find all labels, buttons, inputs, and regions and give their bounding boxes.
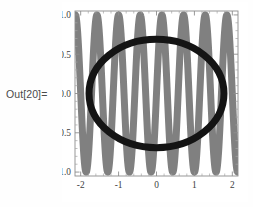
ytick-label: -1.0 <box>62 167 71 177</box>
ytick-label: -0.5 <box>62 128 71 138</box>
xtick-label: -1 <box>115 180 123 190</box>
plot-graphics[interactable]: -2-1012-1.0-0.50.00.51.0 <box>62 2 248 202</box>
ytick-label: 1.0 <box>62 10 71 20</box>
xtick-label: 0 <box>154 180 159 190</box>
xtick-label: 2 <box>230 180 235 190</box>
ytick-label: 0.0 <box>62 89 71 99</box>
out-label: Out[20]= <box>6 88 47 100</box>
xtick-label: -2 <box>77 180 85 190</box>
ytick-label: 0.5 <box>62 50 71 60</box>
xtick-label: 1 <box>192 180 197 190</box>
notebook-output-cell: Out[20]= -2-1012-1.0-0.50.00.51.0 <box>0 0 253 207</box>
plot-svg: -2-1012-1.0-0.50.00.51.0 <box>62 2 248 202</box>
